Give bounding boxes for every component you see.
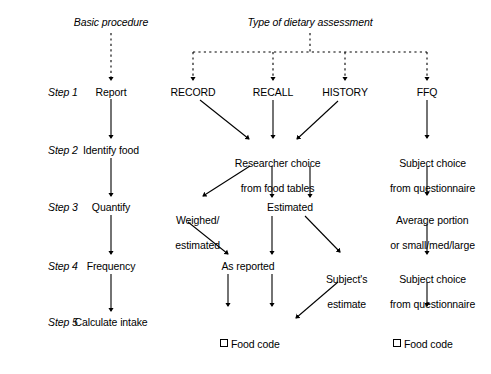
node-ffq: FFQ xyxy=(417,86,438,99)
wire-estimated-to-subjects-estimate xyxy=(305,216,340,252)
node-researcher-choice: Researcher choice from food tables xyxy=(223,144,320,207)
node-calculate-intake: Calculate intake xyxy=(74,316,147,329)
node-average-portion: Average portion or small/med/large xyxy=(379,201,475,264)
node-average-portion-line2: or small/med/large xyxy=(390,239,475,251)
node-history: HISTORY xyxy=(322,86,368,99)
header-type-of-dietary-assessment: Type of dietary assessment xyxy=(247,16,372,29)
node-frequency: Frequency xyxy=(87,260,136,273)
node-subject-choice-frequency-line2: from questionnaire xyxy=(390,298,475,310)
output-ffq-line-food-code-text: Food code xyxy=(404,338,453,350)
node-weighed-estimated: Weighed/ estimated xyxy=(164,201,220,264)
output-line-food-code: Food code xyxy=(220,338,309,352)
output-line-food-code-text: Food code xyxy=(231,338,280,350)
step-label-5: Step 5 xyxy=(48,316,78,329)
node-as-reported: As reported xyxy=(221,260,274,273)
node-recall: RECALL xyxy=(253,86,293,99)
output-ffq: Food code x Portion wt x Frequency x Nut… xyxy=(393,311,482,374)
node-report: Report xyxy=(96,86,127,99)
header-basic-procedure: Basic procedure xyxy=(74,16,148,29)
step-label-4: Step 4 xyxy=(48,260,78,273)
node-researcher-choice-line1: Researcher choice xyxy=(235,157,321,169)
node-estimated: Estimated xyxy=(267,201,313,214)
node-subjects-estimate: Subject's estimate xyxy=(315,260,368,323)
node-researcher-choice-line2: from food tables xyxy=(241,182,315,194)
output-record-recall-history: Food code x Portion wt x Nutrient conten… xyxy=(220,311,309,374)
wire-history-to-researcher-choice xyxy=(297,101,338,139)
step-label-1: Step 1 xyxy=(48,86,78,99)
step-label-3: Step 3 xyxy=(48,201,78,214)
node-subject-choice-frequency-line1: Subject choice xyxy=(399,273,466,285)
node-quantify: Quantify xyxy=(92,201,130,214)
empty-checkbox-icon xyxy=(393,339,401,347)
node-record: RECORD xyxy=(171,86,216,99)
step-label-2: Step 2 xyxy=(48,144,78,157)
wire-record-to-researcher-choice xyxy=(200,100,249,139)
node-subject-choice-quantify-line1: Subject choice xyxy=(399,157,466,169)
output-ffq-line-food-code: Food code xyxy=(393,338,482,352)
node-identify-food: Identify food xyxy=(83,144,139,157)
node-average-portion-line1: Average portion xyxy=(396,214,468,226)
node-subject-choice-quantify: Subject choice from questionnaire xyxy=(379,144,475,207)
node-subjects-estimate-line2: estimate xyxy=(327,298,366,310)
node-weighed-estimated-line2: estimated xyxy=(175,239,220,251)
empty-checkbox-icon xyxy=(220,339,228,347)
node-weighed-estimated-line1: Weighed/ xyxy=(176,214,219,226)
dietary-assessment-flow-diagram: Basic procedure Type of dietary assessme… xyxy=(0,0,491,374)
node-subject-choice-quantify-line2: from questionnaire xyxy=(390,182,475,194)
node-subjects-estimate-line1: Subject's xyxy=(326,273,367,285)
